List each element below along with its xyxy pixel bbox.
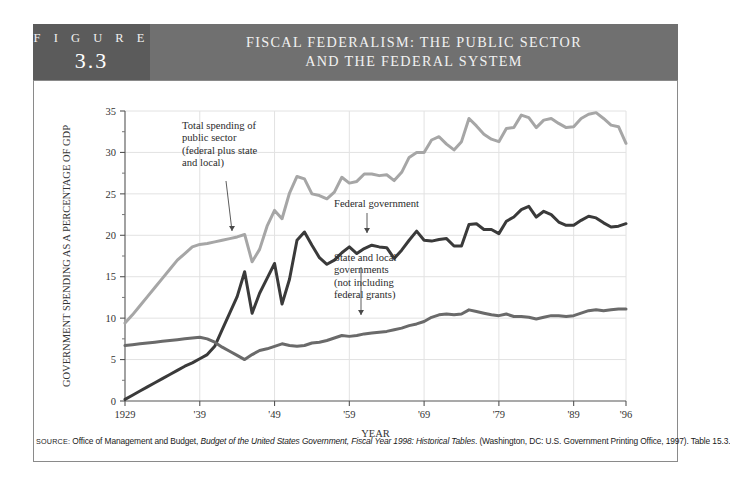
annotation-arrowhead bbox=[364, 228, 370, 233]
source-italic-title: Budget of the United States Government, … bbox=[200, 436, 475, 446]
figure-number-box: F I G U R E 3.3 bbox=[33, 24, 150, 80]
x-tick-label: '69 bbox=[418, 409, 430, 420]
chart-frame: 051015202530351929'39'49'59'69'79'89'96G… bbox=[33, 80, 678, 462]
y-axis-title: GOVERNMENT SPENDING AS A PERCENTAGE OF G… bbox=[61, 125, 72, 387]
annotation-line: federal grants) bbox=[334, 289, 396, 301]
y-tick-label: 30 bbox=[106, 147, 117, 158]
y-tick-label: 25 bbox=[106, 189, 117, 200]
annotation-line: State and local bbox=[334, 252, 396, 263]
source-note: SOURCE: Office of Management and Budget,… bbox=[36, 436, 676, 446]
figure-title-line-1: FISCAL FEDERALISM: THE PUBLIC SECTOR bbox=[246, 33, 582, 52]
y-tick-label: 15 bbox=[106, 271, 117, 282]
y-tick-label: 10 bbox=[106, 313, 117, 324]
annotation-line: Federal government bbox=[334, 198, 419, 209]
figure-title-box: FISCAL FEDERALISM: THE PUBLIC SECTOR AND… bbox=[150, 24, 678, 80]
x-tick-label: '59 bbox=[343, 409, 355, 420]
y-tick-label: 0 bbox=[111, 396, 116, 407]
annotation-arrowhead bbox=[229, 226, 235, 231]
y-tick-label: 35 bbox=[106, 106, 117, 117]
annotation-line: public sector bbox=[182, 132, 237, 143]
x-tick-label: '89 bbox=[567, 409, 579, 420]
chart-annotation: Federal government bbox=[334, 198, 419, 233]
x-tick-label: '96 bbox=[620, 409, 632, 420]
chart-area: 051015202530351929'39'49'59'69'79'89'96G… bbox=[34, 81, 679, 463]
chart-annotation: State and localgovernments(not including… bbox=[334, 252, 396, 315]
figure-word-label: F I G U R E bbox=[33, 31, 150, 46]
source-text-after: . (Washington, DC: U.S. Government Print… bbox=[475, 436, 730, 446]
chart-annotation: Total spending ofpublic sector(federal p… bbox=[182, 120, 258, 231]
source-label: SOURCE: bbox=[36, 437, 70, 446]
y-tick-label: 5 bbox=[111, 354, 116, 365]
annotation-arrowhead bbox=[358, 310, 364, 315]
line-chart: 051015202530351929'39'49'59'69'79'89'96G… bbox=[34, 81, 679, 463]
x-tick-label: 1929 bbox=[115, 409, 136, 420]
annotation-line: Total spending of bbox=[182, 120, 256, 131]
annotation-line: and local) bbox=[182, 157, 225, 169]
y-tick-label: 20 bbox=[106, 230, 117, 241]
x-tick-label: '39 bbox=[194, 409, 206, 420]
source-text-before: Office of Management and Budget, bbox=[70, 436, 200, 446]
x-tick-label: '49 bbox=[268, 409, 280, 420]
figure-number-label: 3.3 bbox=[33, 48, 150, 74]
annotation-leader-line bbox=[226, 181, 232, 231]
figure-title-line-2: AND THE FEDERAL SYSTEM bbox=[305, 52, 523, 71]
annotation-line: (not including bbox=[334, 277, 394, 289]
figure-header: F I G U R E 3.3 FISCAL FEDERALISM: THE P… bbox=[33, 24, 678, 80]
annotation-line: (federal plus state bbox=[182, 145, 258, 157]
x-tick-label: '79 bbox=[493, 409, 505, 420]
